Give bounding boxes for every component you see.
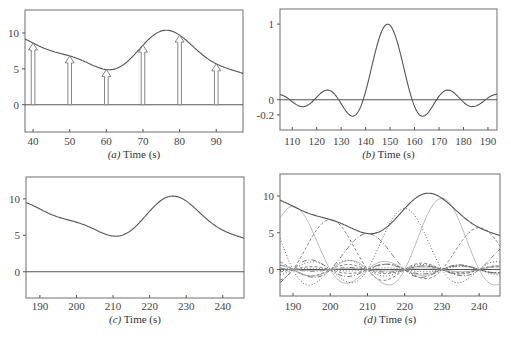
y-tick-label: 5 — [15, 229, 21, 241]
x-tick-label: 50 — [64, 135, 76, 147]
panel-caption: (c) Time (s) — [109, 313, 161, 326]
signal-curve — [280, 24, 497, 116]
x-tick-label: 190 — [32, 300, 49, 312]
y-tick-label: 5 — [14, 63, 20, 75]
sinc-component-180 — [280, 238, 500, 285]
signal-curve — [280, 193, 500, 235]
y-tick-label: 5 — [269, 227, 275, 239]
panel-letter: (d) — [364, 313, 377, 326]
axis-label: Time (s) — [121, 313, 161, 326]
x-tick-label: 190 — [480, 135, 497, 147]
sample-arrow-80 — [175, 35, 184, 105]
sample-arrow-40 — [29, 43, 38, 105]
y-tick-label: 1 — [269, 18, 275, 30]
y-tick-label: 10 — [9, 193, 21, 205]
x-tick-label: 230 — [434, 300, 451, 312]
x-tick-label: 200 — [322, 300, 339, 312]
sample-arrow-50 — [65, 56, 74, 105]
plot-frame — [26, 177, 244, 298]
axis-label: Time (s) — [377, 313, 417, 326]
plot-frame — [25, 10, 243, 132]
panel-b: 110120130140150160170180190-0.201(b) Tim… — [257, 9, 497, 161]
plot-area — [280, 193, 500, 285]
panel-c: 1902002102202302400510(c) Time (s) — [9, 177, 244, 326]
x-tick-label: 180 — [455, 135, 472, 147]
y-tick-label: 0 — [269, 94, 275, 106]
x-tick-label: 160 — [406, 135, 423, 147]
sample-arrow-70 — [138, 45, 147, 105]
x-tick-label: 110 — [284, 135, 301, 147]
x-tick-label: 210 — [359, 300, 376, 312]
axis-label: Time (s) — [375, 148, 415, 161]
y-tick-label: -0.2 — [257, 109, 274, 121]
x-tick-label: 220 — [141, 300, 158, 312]
chart-figure: 4050607080900510(a) Time (s)110120130140… — [0, 0, 511, 341]
axis-label: Time (s) — [121, 148, 161, 161]
y-tick-label: 0 — [14, 99, 20, 111]
panel-letter: (a) — [108, 148, 121, 161]
x-tick-label: 140 — [357, 135, 374, 147]
panel-letter: (c) — [109, 313, 122, 326]
panel-d: 1902002102202302400510(d) Time (s) — [263, 174, 500, 326]
x-tick-label: 240 — [471, 300, 488, 312]
x-tick-label: 240 — [215, 300, 232, 312]
y-tick-label: 10 — [263, 190, 275, 202]
x-tick-label: 80 — [174, 135, 186, 147]
sample-arrow-60 — [102, 70, 111, 105]
x-tick-label: 150 — [382, 135, 399, 147]
panel-letter: (b) — [362, 148, 375, 161]
panel-caption: (a) Time (s) — [108, 148, 161, 161]
x-tick-label: 200 — [68, 300, 85, 312]
y-tick-label: 0 — [15, 266, 21, 278]
x-tick-label: 120 — [308, 135, 325, 147]
y-tick-label: 0 — [269, 264, 275, 276]
plot-area — [25, 30, 243, 105]
x-tick-label: 40 — [28, 135, 40, 147]
x-tick-label: 90 — [211, 135, 223, 147]
plot-frame — [280, 9, 497, 130]
signal-curve — [25, 30, 243, 73]
x-tick-label: 210 — [105, 300, 122, 312]
panel-caption: (d) Time (s) — [364, 313, 417, 326]
panel-caption: (b) Time (s) — [362, 148, 415, 161]
x-tick-label: 230 — [178, 300, 195, 312]
plot-area — [280, 24, 497, 116]
x-tick-label: 70 — [137, 135, 149, 147]
panel-a: 4050607080900510(a) Time (s) — [8, 10, 243, 161]
y-tick-label: 10 — [8, 27, 20, 39]
x-tick-label: 190 — [285, 300, 302, 312]
x-tick-label: 170 — [431, 135, 448, 147]
x-tick-label: 220 — [396, 300, 413, 312]
x-tick-label: 60 — [101, 135, 113, 147]
x-tick-label: 130 — [333, 135, 350, 147]
signal-curve — [26, 196, 244, 238]
plot-area — [26, 196, 244, 238]
sample-arrow-90 — [212, 64, 221, 105]
